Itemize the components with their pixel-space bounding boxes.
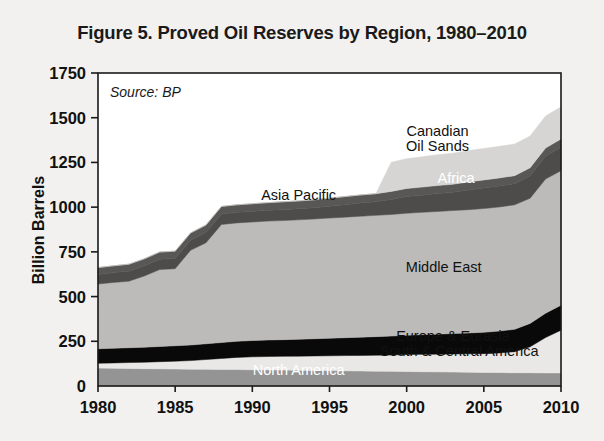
- x-tick-label: 2005: [465, 398, 502, 416]
- stacked-area-chart: 02505007501000125015001750 1980198519901…: [0, 0, 604, 441]
- source-note: Source: BP: [110, 84, 181, 100]
- series-annotation: North America: [253, 362, 346, 378]
- x-tick-label: 2000: [388, 398, 425, 416]
- x-tick-label: 1990: [234, 398, 271, 416]
- series-annotation: Asia Pacific: [261, 187, 336, 203]
- x-tick-label: 1980: [80, 398, 117, 416]
- x-axis-labels: 1980198519901995200020052010: [80, 398, 580, 416]
- series-annotation: Africa: [438, 170, 476, 186]
- series-annotation: Oil Sands: [406, 138, 469, 154]
- x-tick-label: 1995: [311, 398, 348, 416]
- y-tick-label: 1750: [49, 64, 86, 82]
- series-annotation: Middle East: [406, 259, 482, 275]
- y-axis-labels: 02505007501000125015001750: [49, 64, 86, 395]
- series-annotation: South & Central America: [380, 343, 540, 359]
- y-tick-label: 1500: [49, 109, 86, 127]
- y-axis-title: Billion Barrels: [30, 176, 47, 285]
- y-tick-label: 1250: [49, 153, 86, 171]
- figure-page: Figure 5. Proved Oil Reserves by Region,…: [0, 0, 604, 441]
- y-tick-label: 500: [58, 288, 86, 306]
- y-axis-title-text: Billion Barrels: [30, 176, 47, 285]
- x-tick-label: 1985: [157, 398, 194, 416]
- chart-svg: 02505007501000125015001750 1980198519901…: [0, 0, 604, 441]
- x-tick-label: 2010: [543, 398, 580, 416]
- y-tick-label: 0: [77, 377, 86, 395]
- y-tick-label: 250: [58, 332, 86, 350]
- y-tick-label: 750: [58, 243, 86, 261]
- series-annotation: Europe & Eurasia: [396, 328, 511, 344]
- y-tick-label: 1000: [49, 198, 86, 216]
- source-note-text: Source: BP: [110, 84, 181, 100]
